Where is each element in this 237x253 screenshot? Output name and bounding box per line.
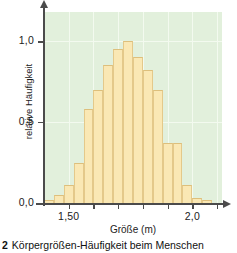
histogram-bar <box>64 185 74 203</box>
histogram-bar <box>54 195 64 203</box>
histogram-bar <box>153 90 163 203</box>
x-axis-tick <box>69 204 70 209</box>
x-axis-line <box>36 203 224 205</box>
caption-text: Körpergrößen-Häufigkeit beim Menschen <box>12 239 204 251</box>
y-axis-label: relative Häufigkeit <box>23 27 34 177</box>
y-axis-tick-label: 0,0 <box>0 196 34 208</box>
histogram-bars <box>44 12 222 203</box>
histogram-bar <box>182 185 192 203</box>
x-axis-tick <box>93 204 94 209</box>
histogram-bar <box>123 41 133 203</box>
histogram-bar <box>93 90 103 203</box>
figure-container: 0,00,51,0 1,502,0 relative Häufigkeit Gr… <box>0 0 237 253</box>
x-axis-tick <box>168 204 169 209</box>
histogram-bar <box>133 57 143 203</box>
x-axis-tick <box>217 204 218 209</box>
y-axis-tick <box>38 203 44 204</box>
histogram-bar <box>74 163 84 203</box>
histogram-bar <box>143 70 153 203</box>
x-axis-arrow-icon <box>223 200 231 208</box>
x-axis-tick <box>143 204 144 209</box>
y-axis-tick <box>38 41 44 42</box>
x-axis-label: Größe (m) <box>44 224 222 235</box>
histogram-bar <box>103 65 113 203</box>
y-axis-tick <box>38 122 44 123</box>
histogram-bar <box>173 143 183 203</box>
y-axis-arrow-icon <box>40 0 48 8</box>
histogram-bar <box>113 49 123 203</box>
x-axis-tick <box>192 204 193 209</box>
plot-area <box>44 12 222 203</box>
x-axis-tick <box>118 204 119 209</box>
caption-number: 2 <box>2 239 8 251</box>
histogram-bar <box>84 109 94 203</box>
y-axis-line <box>43 6 45 206</box>
histogram-bar <box>163 143 173 203</box>
figure-caption: 2Körpergrößen-Häufigkeit beim Menschen <box>2 239 237 251</box>
x-axis-tick-label: 1,50 <box>49 210 89 222</box>
x-axis-tick-label: 2,0 <box>172 210 212 222</box>
